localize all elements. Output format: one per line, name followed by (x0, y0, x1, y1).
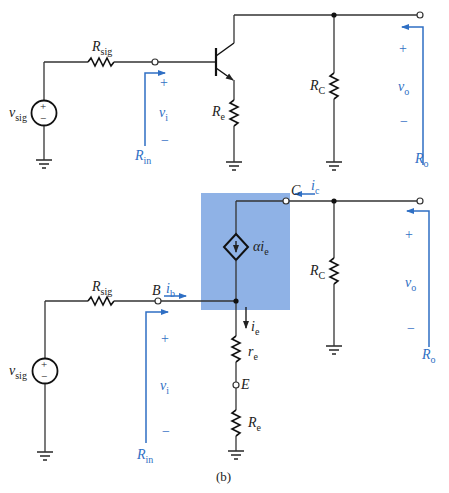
source-plus-bottom: + (41, 359, 47, 370)
vi-plus-bottom: + (161, 332, 169, 346)
vo-minus-top: − (400, 115, 408, 129)
node-e-label: E (241, 378, 250, 392)
vo-minus-bottom: − (407, 322, 415, 336)
label-rc-top: RC (310, 79, 325, 96)
t-model-box (201, 193, 290, 310)
vi-minus-bottom: − (162, 425, 170, 439)
label-ro-top: Ro (415, 152, 429, 169)
vo-plus-bottom: + (405, 228, 413, 242)
label-rin-bottom: Rin (137, 448, 153, 465)
label-rc-bottom: RC (310, 264, 325, 281)
label-re-small: re (248, 345, 258, 362)
label-vi-top: vi (159, 106, 168, 123)
vo-plus-top: + (399, 42, 407, 56)
label-ro-bottom: Ro (422, 348, 436, 365)
node-b-label: B (152, 284, 161, 298)
label-rin-top: Rin (135, 149, 151, 166)
label-vo-top: vo (398, 80, 409, 97)
circuit-diagram (0, 0, 449, 493)
label-vi-bottom: vi (160, 379, 169, 396)
source-minus-top: − (40, 113, 46, 124)
top-terminals (152, 12, 423, 65)
label-re-bottom: Re (248, 416, 261, 433)
label-ie: ie (251, 320, 259, 337)
top-circuit (32, 15, 418, 170)
label-vsig-top: vsig (9, 106, 27, 123)
label-rsig-top: Rsig (92, 40, 112, 57)
source-plus-top: + (40, 101, 46, 112)
vi-plus-top: + (160, 76, 168, 90)
label-re-top: Re (212, 105, 225, 122)
source-minus-bottom: − (41, 371, 47, 382)
label-rsig-bottom: Rsig (92, 280, 112, 297)
figure-caption: (b) (216, 470, 231, 483)
top-annotations (145, 27, 423, 165)
label-vo-bottom: vo (405, 276, 416, 293)
label-vsig-bottom: vsig (9, 364, 27, 381)
label-ic: ic (311, 179, 319, 196)
node-c-label: C (291, 184, 300, 198)
vi-minus-top: − (161, 134, 169, 148)
label-ib: ib (166, 282, 175, 299)
label-dependent-source: αie (253, 240, 269, 257)
